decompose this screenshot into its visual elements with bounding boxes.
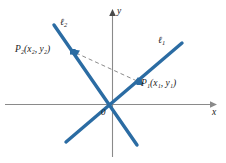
y-axis: [109, 9, 116, 157]
line-2: [54, 25, 137, 145]
origin-label: 0: [101, 108, 106, 117]
line-label-2: ℓ2: [60, 18, 67, 28]
point-marker-p2: [70, 49, 76, 55]
dashed-segment-p1-p2: [76, 53, 137, 81]
point-label-p2: P₂(x₂, y₂): [15, 45, 50, 55]
point-label-p1: P₁(x₁, y₁): [141, 79, 176, 89]
y-axis-arrowhead: [109, 9, 116, 16]
geometry-figure: P₂(x₂, y₂) P₁(x₁, y₁) ℓ1 ℓ2 0 x y: [0, 0, 226, 163]
figure-canvas: [0, 0, 226, 163]
x-axis-label: x: [212, 108, 216, 118]
y-axis-label: y: [117, 7, 121, 17]
line-label-1: ℓ1: [158, 36, 165, 46]
